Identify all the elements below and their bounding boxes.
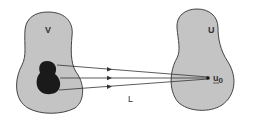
diagram: V U u0 L [0,0,262,120]
label-v: V [45,25,51,35]
mapping-diagram: V U u0 L [0,0,262,120]
label-u: U [208,25,215,35]
label-l: L [128,94,133,104]
region-u [171,9,234,110]
point-u0 [207,77,210,80]
arrowheads [107,67,112,89]
